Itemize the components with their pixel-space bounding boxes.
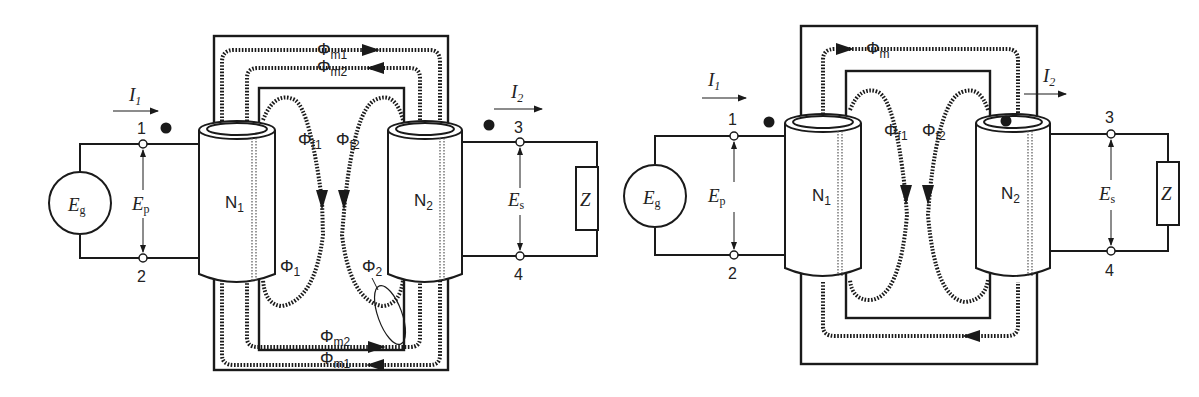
wire-primary-bottom	[655, 228, 785, 255]
wire-primary-bottom	[80, 235, 199, 258]
label-terminal-1: 1	[728, 111, 737, 128]
arrow-f1	[316, 190, 328, 210]
polarity-dot-secondary	[1001, 116, 1012, 127]
terminal-2	[139, 254, 147, 262]
polarity-dot-primary	[764, 117, 775, 128]
core-inner	[846, 71, 990, 318]
label-ep: Ep	[131, 193, 150, 216]
wire-secondary-bottom	[462, 230, 597, 256]
label-i1: I1	[128, 84, 141, 108]
wire-secondary-top	[462, 142, 597, 167]
arrow-f2	[922, 185, 934, 205]
terminal-4	[516, 252, 524, 260]
label-terminal-3: 3	[1105, 109, 1114, 126]
arrow-m2-bottom	[368, 341, 386, 353]
label-terminal-2: 2	[137, 268, 146, 285]
wire-primary-top	[80, 144, 199, 172]
label-phi-2: Φ2	[362, 257, 383, 279]
terminal-2	[730, 251, 738, 259]
label-z: Z	[1161, 183, 1172, 204]
transformer-diagrams: I1 1 2 Eg Ep N1 N2 I2 3 4 Es Z Φm1 Φm2 Φ…	[0, 0, 1199, 397]
arrow-m-top	[836, 43, 854, 55]
flux-phi2-loop	[368, 282, 412, 348]
terminal-4	[1107, 247, 1115, 255]
wire-primary-top	[655, 136, 785, 164]
terminal-3	[1107, 130, 1115, 138]
label-phi-1: Φ1	[280, 257, 301, 279]
terminal-1	[139, 140, 147, 148]
label-terminal-1: 1	[137, 120, 146, 137]
label-phi-m1-bottom: Φm1	[320, 349, 351, 371]
arrow-f1	[900, 185, 912, 205]
polarity-dot-primary	[161, 123, 172, 134]
core-inner	[259, 88, 404, 350]
flux-m-bottom	[823, 282, 1018, 336]
label-i2: I2	[510, 81, 523, 105]
label-terminal-3: 3	[514, 119, 523, 136]
label-phi-m2-bottom: Φm2	[320, 327, 351, 349]
label-phi-f1: Φf1	[298, 130, 322, 152]
label-phi-m: Φm	[866, 39, 890, 61]
label-z: Z	[580, 189, 591, 210]
label-phi-f2: Φf2	[922, 121, 946, 143]
figure-right: I1 1 2 Eg Ep N1 N2 I2 3 4 Es Z Φm Φf1 Φf…	[624, 26, 1179, 364]
label-i1: I1	[707, 69, 720, 93]
label-es: Es	[507, 189, 525, 212]
terminal-3	[516, 138, 524, 146]
figure-left: I1 1 2 Eg Ep N1 N2 I2 3 4 Es Z Φm1 Φm2 Φ…	[49, 36, 598, 371]
phi2-leader	[372, 278, 378, 290]
label-i2: I2	[1042, 65, 1055, 89]
label-es: Es	[1098, 183, 1116, 206]
label-ep: Ep	[707, 185, 726, 208]
arrow-m-bottom	[962, 330, 980, 342]
label-phi-f1: Φf1	[884, 121, 908, 143]
polarity-dot-secondary	[484, 120, 495, 131]
arrow-m2-top	[366, 62, 384, 74]
terminal-1	[730, 132, 738, 140]
label-terminal-4: 4	[514, 266, 523, 283]
arrow-f2	[338, 190, 350, 210]
label-terminal-4: 4	[1105, 262, 1114, 279]
label-terminal-2: 2	[728, 265, 737, 282]
arrow-m1-top	[362, 44, 380, 56]
